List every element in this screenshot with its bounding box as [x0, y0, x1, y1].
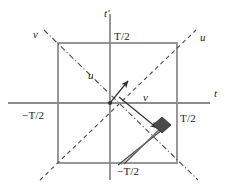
spacetime-diagram-figure: t t' u v u v T/2 T/2 −T/2 −T/2 — [0, 0, 228, 187]
t-axis-label-positioned: t — [214, 88, 217, 99]
event-marker-diamond — [153, 117, 171, 133]
t-prime-axis-label: t' — [104, 8, 110, 19]
v-diagonal-line — [44, 30, 198, 180]
u-diagonal-label: u — [200, 32, 206, 43]
v-vector-label: v — [143, 92, 148, 103]
tick-label-bottom: −T/2 — [117, 166, 139, 177]
u-vector-label: u — [88, 70, 94, 81]
u-diagonal-line — [40, 30, 196, 180]
worldtube-centerline — [121, 126, 164, 165]
tick-label-top: T/2 — [114, 31, 130, 42]
tick-label-left: −T/2 — [22, 110, 44, 121]
tick-label-right: T/2 — [180, 113, 196, 124]
v-vector-arrow — [119, 97, 157, 128]
u-vector-arrow — [110, 81, 128, 103]
v-diagonal-label: v — [33, 29, 38, 40]
